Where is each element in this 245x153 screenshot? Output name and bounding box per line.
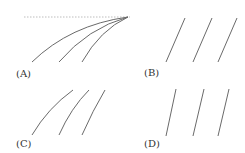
panel-b: (B) [144,18,237,78]
panel-b-line-3 [218,18,237,62]
panel-d: (D) [144,89,229,149]
panel-d-line-2 [193,89,204,136]
panel-a-curve-3 [82,17,128,62]
panel-a-label: (A) [16,68,31,79]
panel-b-line-1 [166,18,185,62]
options-figure: (A) (B) (C) (D) [0,0,245,153]
panel-b-line-2 [193,18,212,62]
panel-a-curve-1 [32,17,128,62]
panel-a-curve-2 [59,17,128,62]
panel-c-curve-3 [82,90,105,135]
panel-c-curve-1 [32,90,73,135]
panel-d-line-3 [218,89,229,136]
panel-d-label: (D) [144,138,160,149]
panel-c-label: (C) [16,138,32,149]
panel-d-line-1 [166,89,176,136]
panel-b-label: (B) [144,67,159,78]
panel-c: (C) [16,90,105,149]
panel-a: (A) [16,17,130,79]
